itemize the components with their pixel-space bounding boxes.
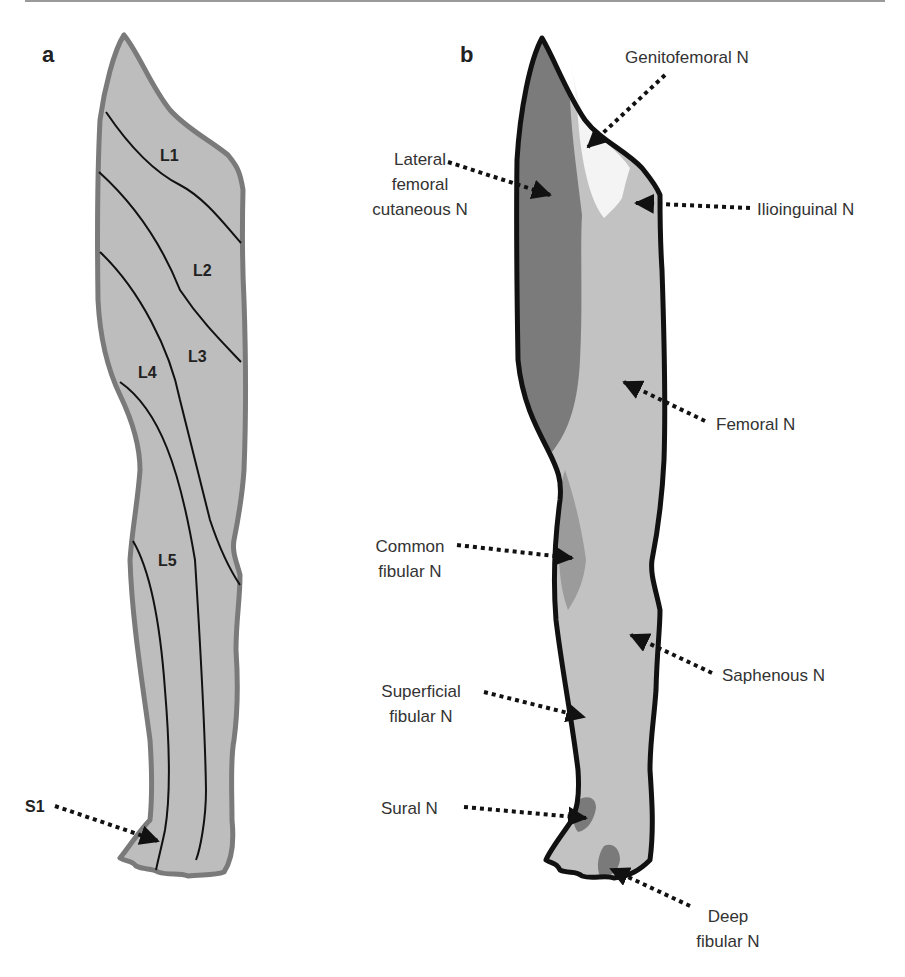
dermatome-label-l1: L1: [160, 147, 179, 164]
leg-b: [517, 38, 665, 878]
label-femoral: Femoral N: [716, 415, 795, 434]
dermatome-label-s1: S1: [25, 798, 45, 815]
label-lateral-femoral-1: Lateral: [394, 150, 446, 169]
dermatome-label-l3: L3: [188, 348, 207, 365]
label-saphenous: Saphenous N: [722, 666, 825, 685]
label-superficial-fibular-1: Superficial: [381, 682, 460, 701]
panel-a-letter: a: [42, 42, 55, 67]
label-deep-fibular-1: Deep: [708, 907, 749, 926]
dermatome-label-l5: L5: [158, 552, 177, 569]
label-superficial-fibular-2: fibular N: [389, 707, 452, 726]
pointer-genitofemoral: [588, 75, 665, 147]
pointer-sural: [464, 807, 586, 818]
label-lateral-femoral-3: cutaneous N: [372, 200, 467, 219]
label-deep-fibular-2: fibular N: [696, 932, 759, 951]
label-lateral-femoral-2: femoral: [392, 175, 449, 194]
label-common-fibular-2: fibular N: [378, 562, 441, 581]
label-common-fibular-1: Common: [376, 537, 445, 556]
label-sural: Sural N: [381, 799, 438, 818]
label-genitofemoral: Genitofemoral N: [625, 48, 749, 67]
label-ilioinguinal: Ilioinguinal N: [757, 200, 854, 219]
dermatome-label-l2: L2: [193, 262, 212, 279]
pointer-deep-fibular: [611, 869, 690, 906]
figure-canvas: a L1 L2 L3 L4 L5 S1 b Genitofe: [0, 0, 905, 977]
dermatome-label-l4: L4: [138, 364, 157, 381]
panel-b-letter: b: [460, 42, 473, 67]
